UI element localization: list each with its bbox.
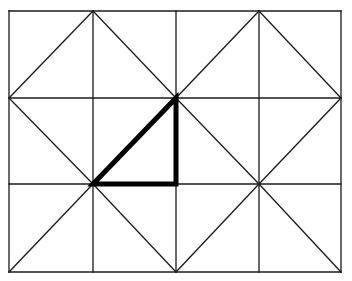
diagonal-line	[176, 184, 259, 272]
diagonal-line	[259, 184, 341, 272]
diagonal-line	[9, 11, 93, 98]
highlighted-triangle	[93, 98, 176, 184]
diagonal-line	[93, 11, 176, 98]
diagonal-line	[259, 98, 341, 184]
diagonal-line	[176, 11, 259, 98]
diagonal-line	[9, 98, 93, 184]
diagonal-line	[93, 184, 176, 272]
diagonal-line	[9, 184, 93, 272]
diagonal-line	[259, 11, 341, 98]
diagonal-line	[176, 98, 259, 184]
grid-diagram	[0, 0, 352, 281]
